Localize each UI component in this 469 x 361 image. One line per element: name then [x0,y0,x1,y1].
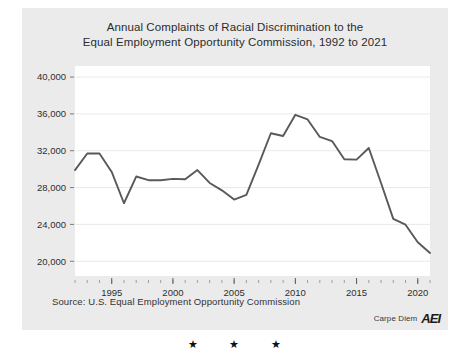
x-axis-tick-label: 2020 [407,287,428,298]
brand-mark: Carpe Diem AEI [374,311,440,326]
aei-logo: AEI [421,311,440,326]
star-separator: ★ ★ ★ [0,338,469,351]
x-axis-tick-label: 2015 [346,287,367,298]
brand-name: Carpe Diem [374,314,418,323]
y-axis-tick-label: 36,000 [37,108,66,119]
chart-card: Annual Complaints of Racial Discriminati… [22,8,448,330]
source-note: Source: U.S. Equal Employment Opportunit… [52,296,300,307]
line-chart-svg: 20,00024,00028,00032,00036,00040,0001995… [22,8,448,330]
plot-area: 20,00024,00028,00032,00036,00040,0001995… [22,8,448,330]
y-axis-tick-label: 32,000 [37,145,66,156]
y-axis-tick-label: 40,000 [37,71,66,82]
page-root: Annual Complaints of Racial Discriminati… [0,0,469,361]
y-axis-tick-label: 28,000 [37,182,66,193]
y-axis-tick-label: 24,000 [37,219,66,230]
y-axis-tick-label: 20,000 [37,256,66,267]
